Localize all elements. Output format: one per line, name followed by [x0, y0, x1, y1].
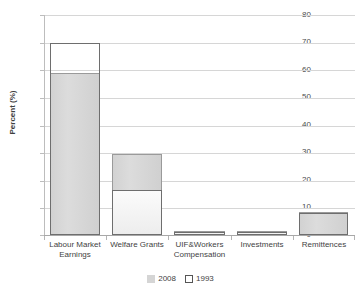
bar-group-uif-workers-compensation [168, 15, 231, 235]
x-axis-label-line1: Labour Market [44, 240, 106, 250]
x-axis-label-investments: Investments [231, 240, 293, 250]
bar-chart: Percent (%) 80 70 60 50 40 30 20 10 0 [0, 0, 361, 296]
bar-1993-labour-market-earnings [50, 43, 100, 236]
legend-swatch-1993-icon [185, 275, 193, 283]
bar-1993-remittences [299, 213, 348, 235]
legend-item-2008[interactable]: 2008 [147, 274, 176, 283]
y-axis-title: Percent (%) [8, 77, 17, 149]
legend-swatch-2008-icon [147, 275, 155, 283]
bar-1993-uif-workers-compensation [174, 232, 225, 235]
x-axis-label-line2: Earnings [44, 250, 106, 260]
bar-1993-investments [237, 232, 287, 235]
x-axis-label-line1: Remittences [293, 240, 355, 250]
x-axis-label-welfare-grants: Welfare Grants [106, 240, 168, 250]
legend-label-2008: 2008 [158, 274, 176, 283]
x-axis-label-line1: UIF&Workers [168, 240, 231, 250]
x-axis-label-remittences: Remittences [293, 240, 355, 250]
chart-legend: 2008 1993 [0, 274, 361, 283]
bar-group-labour-market-earnings [44, 15, 106, 235]
x-axis-label-line1: Investments [231, 240, 293, 250]
legend-label-1993: 1993 [196, 274, 214, 283]
bar-group-welfare-grants [106, 15, 168, 235]
bar-group-remittences [293, 15, 354, 235]
bar-group-investments [231, 15, 293, 235]
x-axis-label-line1: Welfare Grants [106, 240, 168, 250]
x-axis-label-uif-workers-compensation: UIF&Workers Compensation [168, 240, 231, 260]
x-axis-label-line2: Compensation [168, 250, 231, 260]
x-axis-line [44, 235, 355, 236]
legend-item-1993[interactable]: 1993 [185, 274, 214, 283]
x-axis-label-labour-market-earnings: Labour Market Earnings [44, 240, 106, 260]
bar-1993-welfare-grants [112, 190, 162, 235]
plot-area [44, 15, 355, 236]
